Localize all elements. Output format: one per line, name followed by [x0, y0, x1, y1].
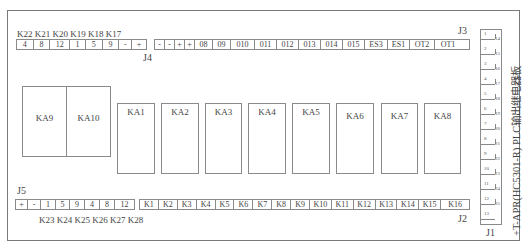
j2-terminal: K7: [253, 200, 272, 209]
j1-pin-right: 14: [495, 36, 500, 41]
j4-terminal: 4: [17, 40, 34, 49]
j2-label: J2: [458, 214, 467, 224]
j4-terminal: -: [165, 40, 175, 49]
j1-pin-row: 619: [481, 106, 501, 121]
relay-ka7: KA7: [381, 103, 418, 174]
j1-pin-left: 9: [484, 151, 487, 156]
j4-terminal: +: [132, 40, 146, 49]
relay-label: KA5: [293, 107, 329, 117]
relay-label: KA2: [162, 107, 198, 117]
j2-terminal: K8: [272, 200, 291, 209]
j4-terminal: -: [155, 40, 165, 49]
j1-pin-left: 11: [484, 181, 489, 186]
relay-label: KA4: [249, 107, 285, 117]
j5-terminal: +: [16, 200, 28, 209]
relay-ka8: KA8: [424, 103, 461, 174]
j1-pin-right: 16: [495, 66, 500, 71]
j5-terminal: 9: [70, 200, 85, 209]
j2-terminal: K1: [140, 200, 159, 209]
j1-pin-left: 1: [484, 31, 487, 36]
j2-terminal: K16: [441, 200, 469, 209]
relay-label: KA9: [23, 113, 66, 123]
j1-pin-left: 5: [484, 91, 487, 96]
j1-pin-row: 518: [481, 91, 501, 106]
j4-terminal: 12: [50, 40, 70, 49]
j2-terminal: K5: [216, 200, 235, 209]
j4-terminal: 014: [321, 40, 343, 49]
j4-terminal: OT1: [435, 40, 461, 49]
relay-ka2: KA2: [161, 103, 199, 174]
j2-terminal: K3: [178, 200, 197, 209]
j2-terminal-block: K1 K2 K3 K4 K5 K6 K7 K8 K9 K10 K11 K12 K…: [139, 199, 470, 210]
relay-ka1: KA1: [117, 103, 155, 174]
j5-terminal: 5: [56, 200, 70, 209]
j1-pin-row: 1023: [481, 166, 501, 181]
relay-ka4: KA4: [248, 103, 286, 174]
relay-label: KA7: [382, 111, 417, 121]
j2-terminal: K4: [197, 200, 216, 209]
j4-terminal: -: [119, 40, 132, 49]
j2-terminal: K11: [332, 200, 354, 209]
j1-pin-right: 20: [495, 126, 500, 131]
j2-terminal: K6: [234, 200, 253, 209]
j1-pin-left: 13: [484, 211, 489, 216]
j4-terminal: 013: [299, 40, 321, 49]
j4-terminal: ES1: [388, 40, 410, 49]
j1-pin-right: 15: [495, 51, 500, 56]
j1-pin-left: 12: [484, 196, 489, 201]
j1-pin-right: 17: [495, 81, 500, 86]
j1-pin-row: 821: [481, 136, 501, 151]
relay-label: KA10: [67, 113, 110, 123]
j1-pin-right: 19: [495, 111, 500, 116]
j2-terminal: K2: [159, 200, 178, 209]
relay-ka6: KA6: [336, 103, 374, 174]
j5-k-labels: K23 K24 K25 K26 K27 K28: [39, 215, 143, 225]
j4-terminal: +: [175, 40, 185, 49]
j1-pin-row: 114: [481, 31, 501, 46]
j4-terminal: 011: [255, 40, 277, 49]
j4-terminal: 012: [277, 40, 299, 49]
j1-pin-row: 720: [481, 121, 501, 136]
j2-terminal: K13: [376, 200, 398, 209]
j4-terminal: 010: [231, 40, 255, 49]
j1-pin-right: 24: [495, 186, 500, 191]
j4-terminal: 09: [213, 40, 231, 49]
j5-terminal: -: [28, 200, 41, 209]
j1-pin-row: 1124: [481, 181, 501, 196]
j5-terminal-block: + - 1 5 9 4 8 12: [15, 199, 135, 210]
j4-terminal: 015: [343, 40, 365, 49]
relay-ka9: KA9: [22, 86, 67, 157]
j1-pin-left: 8: [484, 136, 487, 141]
j5-terminal: 12: [115, 200, 134, 209]
j1-pin-row: 922: [481, 151, 501, 166]
j1-pin-row: 316: [481, 61, 501, 76]
j1-pin-left: 10: [484, 166, 489, 171]
j4-terminal: OT2: [410, 40, 435, 49]
j4-left-terminal-block: 4 8 12 1 5 9 - +: [16, 39, 147, 50]
j1-label: J1: [486, 228, 495, 238]
board-title: +T-APR(HC5301-R) PLC输出继电器板: [508, 66, 523, 236]
j1-pin-row: 417: [481, 76, 501, 91]
j2-terminal: K14: [397, 200, 419, 209]
relay-label: KA6: [337, 111, 373, 121]
j1-pin-right: 18: [495, 96, 500, 101]
j5-label: J5: [17, 186, 26, 196]
relay-ka10: KA10: [66, 86, 111, 157]
j1-pin-right: 22: [495, 156, 500, 161]
relay-label: KA3: [206, 107, 241, 117]
j1-pin-row: 1225: [481, 196, 501, 211]
j4-right-terminal-block: - - + + 08 09 010 011 012 013 014 015 ES…: [154, 39, 470, 50]
j5-terminal: 8: [100, 200, 115, 209]
j1-pin-left: 6: [484, 106, 487, 111]
j2-terminal: K15: [419, 200, 441, 209]
j4-label: J4: [143, 53, 152, 63]
relay-label: KA8: [425, 111, 460, 121]
j4-terminal: ES3: [365, 40, 388, 49]
j4-terminal: 5: [86, 40, 103, 49]
j1-pin-left: 7: [484, 121, 487, 126]
j4-k-labels: K22 K21 K20 K19 K18 K17: [17, 29, 121, 39]
relay-label: KA1: [118, 107, 154, 117]
j5-terminal: 4: [85, 200, 100, 209]
j1-pin-left: 4: [484, 76, 487, 81]
j1-pin-right: 25: [495, 201, 500, 206]
